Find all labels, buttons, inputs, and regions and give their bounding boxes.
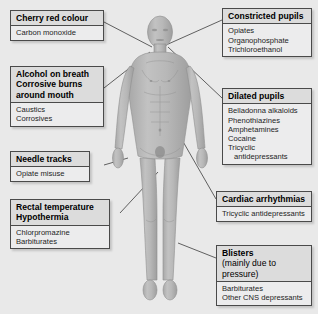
right-foot	[163, 280, 177, 300]
box-needle-tracks[interactable]: Needle tracks Opiate misuse	[10, 151, 90, 182]
list-item: Tricyclic antidepressants	[222, 209, 307, 218]
box-list-needle-tracks: Opiate misuse	[11, 167, 89, 180]
right-nipple	[168, 80, 171, 82]
box-alcohol-on-breath[interactable]: Alcohol on breath Corrosive burns around…	[10, 66, 104, 127]
navel	[159, 128, 162, 131]
box-cherry-red-colour[interactable]: Cherry red colour Carbon monoxide	[10, 10, 104, 41]
box-list-cherry-red: Carbon monoxide	[11, 26, 103, 39]
box-constricted-pupils[interactable]: Constricted pupils Opiates Organophospha…	[222, 8, 312, 57]
list-item: antidepressants	[228, 152, 307, 161]
list-item: Trichloroethanol	[228, 45, 307, 54]
list-item: Carbon monoxide	[16, 28, 99, 37]
box-header-cardiac-arrhythmias: Cardiac arrhythmias	[217, 192, 311, 207]
list-item: Barbiturates	[16, 237, 105, 246]
box-header-alcohol: Alcohol on breath Corrosive burns around…	[11, 67, 103, 103]
left-leg	[140, 158, 157, 280]
box-header-cherry-red: Cherry red colour	[11, 11, 103, 26]
list-item: Chlorpromazine	[16, 228, 105, 237]
left-foot	[143, 280, 157, 300]
left-hand	[113, 148, 124, 168]
box-list-blisters: Barbiturates Other CNS depressants	[217, 282, 311, 304]
list-item: Cocaine	[228, 134, 307, 143]
box-header-blisters-subtitle: (mainly due to pressure)	[222, 258, 307, 279]
box-dilated-pupils[interactable]: Dilated pupils Belladonna alkaloids Phen…	[222, 88, 312, 165]
box-header-dilated-pupils: Dilated pupils	[223, 89, 311, 104]
groin	[155, 146, 165, 158]
box-cardiac-arrhythmias[interactable]: Cardiac arrhythmias Tricyclic antidepres…	[216, 191, 312, 222]
box-rectal-temperature[interactable]: Rectal temperature Hypothermia Chlorprom…	[10, 199, 110, 249]
right-hand	[197, 148, 208, 168]
list-item: Other CNS depressants	[222, 293, 307, 302]
box-list-cardiac-arrhythmias: Tricyclic antidepressants	[217, 207, 311, 220]
box-header-blisters-title: Blisters	[222, 248, 254, 258]
box-list-constricted-pupils: Opiates Organophosphate Trichloroethanol	[223, 24, 311, 56]
box-header-rectal-temp: Rectal temperature Hypothermia	[11, 200, 109, 226]
box-list-rectal-temp: Chlorpromazine Barbiturates	[11, 226, 109, 248]
list-item: Opiates	[228, 26, 307, 35]
left-nipple	[150, 80, 153, 82]
list-item: Caustics	[16, 105, 99, 114]
box-list-alcohol: Caustics Corrosives	[11, 103, 103, 125]
box-header-blisters: Blisters (mainly due to pressure)	[217, 246, 311, 282]
list-item: Organophosphate	[228, 36, 307, 45]
list-item: Barbiturates	[222, 284, 307, 293]
box-header-needle-tracks: Needle tracks	[11, 152, 89, 167]
box-header-constricted-pupils: Constricted pupils	[223, 9, 311, 24]
left-eye	[152, 29, 157, 32]
list-item: Corrosives	[16, 114, 99, 123]
box-list-dilated-pupils: Belladonna alkaloids Phenothiazines Amph…	[223, 104, 311, 163]
right-leg	[163, 158, 180, 280]
list-item: Amphetamines	[228, 125, 307, 134]
list-item: Opiate misuse	[16, 169, 85, 178]
diagram-canvas: Cherry red colour Carbon monoxide Alcoho…	[0, 0, 318, 314]
list-item: Tricyclic	[228, 143, 307, 152]
right-eye	[163, 29, 168, 32]
box-blisters[interactable]: Blisters (mainly due to pressure) Barbit…	[216, 245, 312, 306]
human-figure-illustration	[112, 8, 208, 308]
list-item: Belladonna alkaloids	[228, 106, 307, 115]
head	[148, 16, 173, 48]
mouth	[156, 39, 164, 41]
list-item: Phenothiazines	[228, 116, 307, 125]
